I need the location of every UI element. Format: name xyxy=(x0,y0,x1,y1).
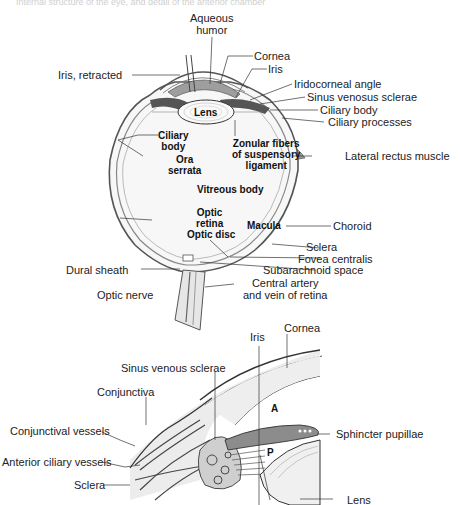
label-optic-disc: Optic disc xyxy=(187,229,235,240)
label-ciliary-body-line1: Ciliary xyxy=(158,130,189,141)
label-iris-detail: Iris xyxy=(250,331,265,343)
label-optic-retina-line1: Optic xyxy=(196,207,223,218)
label-zonular-line2: of suspensory xyxy=(232,149,300,160)
label-cornea: Cornea xyxy=(254,50,290,62)
label-central-artery-vein: Central artery and vein of retina xyxy=(243,277,327,301)
label-conjunctival-vessels: Conjunctival vessels xyxy=(10,425,110,437)
label-macula: Macula xyxy=(247,220,281,231)
label-sclera-top: Sclera xyxy=(306,241,337,253)
label-lens-detail: Lens xyxy=(347,494,371,505)
label-zonular-line3: ligament xyxy=(232,160,300,171)
label-ciliary-processes: Ciliary processes xyxy=(328,116,412,128)
label-subarachnoid-space: Subarachnoid space xyxy=(263,264,363,276)
label-posterior-chamber: P xyxy=(267,447,274,458)
label-anterior-ciliary-vessels: Anterior ciliary vessels xyxy=(2,456,111,468)
label-conjunctiva: Conjunctiva xyxy=(97,386,154,398)
label-aqueous-humor-line1: Aqueous xyxy=(190,12,233,24)
label-iridocorneal-angle: Iridocorneal angle xyxy=(294,78,381,90)
label-aqueous-humor-line2: humor xyxy=(190,24,233,36)
label-sinus-venosus-sclerae: Sinus venosus sclerae xyxy=(307,91,417,103)
label-central-artery-line1: Central artery xyxy=(243,277,327,289)
label-ora-line2: serrata xyxy=(168,165,201,176)
label-zonular-line1: Zonular fibers xyxy=(232,138,300,149)
label-ora-line1: Ora xyxy=(168,154,201,165)
label-lateral-rectus-muscle: Lateral rectus muscle xyxy=(345,150,450,162)
label-ciliary-body-left: Ciliary body xyxy=(158,130,189,152)
label-optic-retina: Optic retina xyxy=(196,207,223,229)
label-iris: Iris xyxy=(268,63,283,75)
label-sinus-venous-sclerae: Sinus venous sclerae xyxy=(121,362,226,374)
label-cornea-detail: Cornea xyxy=(284,322,320,334)
label-optic-retina-line2: retina xyxy=(196,218,223,229)
label-central-artery-line2: and vein of retina xyxy=(243,289,327,301)
label-lens: Lens xyxy=(194,107,217,118)
label-ciliary-body-right: Ciliary body xyxy=(320,104,377,116)
label-anterior-chamber: A xyxy=(271,403,278,414)
label-aqueous-humor: Aqueous humor xyxy=(190,12,233,36)
label-ora-serrata: Ora serrata xyxy=(168,154,201,176)
label-sclera-detail: Sclera xyxy=(74,479,105,491)
label-dural-sheath: Dural sheath xyxy=(66,264,128,276)
label-choroid: Choroid xyxy=(333,220,372,232)
label-sphincter-pupillae: Sphincter pupillae xyxy=(336,428,423,440)
label-zonular-fibers: Zonular fibers of suspensory ligament xyxy=(232,138,300,171)
label-vitreous-body: Vitreous body xyxy=(197,184,264,195)
label-ciliary-body-line2: body xyxy=(158,141,189,152)
label-optic-nerve: Optic nerve xyxy=(97,289,153,301)
label-iris-retracted: Iris, retracted xyxy=(58,69,122,81)
